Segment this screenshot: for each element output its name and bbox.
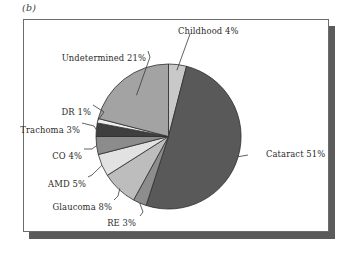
pie-label-co: CO 4% — [52, 152, 82, 160]
pie-label-dr: DR 1% — [62, 108, 91, 116]
figure-root: (b) Childhood 4%Cataract 51%RE 3%Glaucom… — [0, 0, 344, 257]
pie-label-glaucoma: Glaucoma 8% — [53, 203, 112, 211]
pie-label-childhood: Childhood 4% — [178, 27, 239, 35]
leader-line-childhood — [177, 34, 190, 70]
pie-label-cataract: Cataract 51% — [266, 150, 325, 158]
leader-line-amd — [88, 165, 102, 177]
pie-label-amd: AMD 5% — [48, 180, 86, 188]
pie-slices-group — [96, 64, 241, 209]
leader-line-co — [84, 146, 97, 149]
leader-line-re — [140, 203, 143, 216]
leader-line-trachoma — [82, 123, 96, 130]
pie-label-undetermined: Undetermined 21% — [62, 54, 146, 62]
leader-line-cataract — [238, 155, 248, 157]
pie-label-trachoma: Trachoma 3% — [20, 126, 80, 134]
pie-label-re: RE 3% — [107, 219, 136, 227]
